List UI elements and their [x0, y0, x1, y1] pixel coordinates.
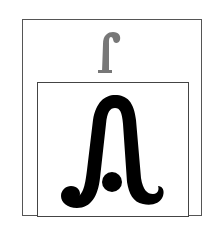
hooked-f-icon	[94, 30, 124, 74]
arch-dot-icon	[55, 90, 175, 210]
